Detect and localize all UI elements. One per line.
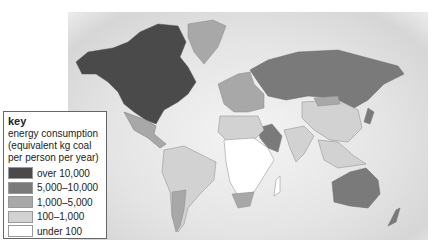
swatch-1000-5000	[8, 196, 33, 208]
region-southeast-asia	[318, 140, 366, 168]
region-south-africa	[232, 192, 254, 208]
swatch-5000-10000	[8, 182, 33, 194]
region-new-zealand	[388, 208, 400, 226]
region-central-africa	[224, 138, 274, 196]
region-mongolia	[314, 96, 340, 106]
map-key: key energy consumption (equivalent kg co…	[3, 111, 107, 239]
region-north-america	[76, 24, 196, 124]
region-madagascar	[274, 176, 280, 196]
swatch-under-100	[8, 225, 33, 237]
key-item-100-1000: 100–1,000	[8, 210, 102, 225]
key-label: 1,000–5,000	[37, 197, 93, 208]
region-south-america	[162, 146, 216, 232]
swatch-100-1000	[8, 211, 33, 223]
world-map	[68, 12, 428, 240]
key-item-1000-5000: 1,000–5,000	[8, 195, 102, 210]
key-item-over-10000: over 10,000	[8, 166, 102, 181]
key-title: key	[8, 115, 102, 128]
key-item-5000-10000: 5,000–10,000	[8, 181, 102, 196]
key-label: under 100	[37, 226, 82, 237]
swatch-over-10000	[8, 167, 33, 179]
world-map-svg	[68, 12, 428, 240]
region-japan	[364, 108, 374, 124]
region-argentina	[172, 190, 186, 232]
key-label: 5,000–10,000	[37, 182, 98, 193]
key-label: over 10,000	[37, 168, 90, 179]
key-description: energy consumption (equivalent kg coal p…	[8, 128, 102, 164]
region-greenland	[188, 20, 226, 64]
key-label: 100–1,000	[37, 211, 84, 222]
key-item-under-100: under 100	[8, 224, 102, 239]
region-india	[284, 126, 314, 162]
region-north-africa	[218, 116, 264, 142]
region-australia	[332, 168, 380, 208]
